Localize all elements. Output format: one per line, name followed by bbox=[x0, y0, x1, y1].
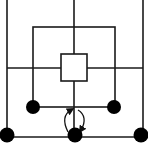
piece-outer-left[interactable] bbox=[0, 128, 15, 143]
mill-board bbox=[0, 0, 148, 147]
piece-inner-right[interactable] bbox=[107, 100, 121, 114]
arrow-down-icon bbox=[78, 110, 84, 130]
inner-square bbox=[61, 54, 87, 81]
arrow-up-icon bbox=[65, 110, 71, 132]
piece-inner-left[interactable] bbox=[26, 100, 40, 114]
piece-outer-right[interactable] bbox=[134, 128, 149, 143]
piece-outer-center[interactable] bbox=[68, 128, 83, 143]
